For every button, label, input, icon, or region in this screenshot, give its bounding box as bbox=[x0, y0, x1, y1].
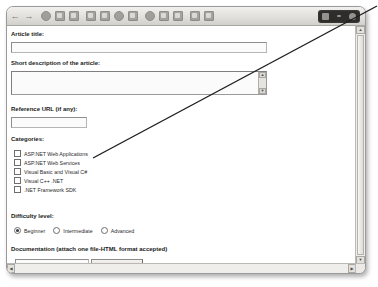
person-icon[interactable] bbox=[203, 10, 215, 22]
category-checkbox-row[interactable]: Visual C++ .NET bbox=[14, 176, 88, 185]
category-label: Visual C++ .NET bbox=[24, 178, 63, 184]
stop-icon[interactable] bbox=[40, 10, 52, 22]
article-title-label: Article title: bbox=[11, 31, 44, 37]
toolbar-separator bbox=[35, 11, 38, 22]
category-checkbox-row[interactable]: ASP.NET Web Applications bbox=[14, 149, 88, 158]
refresh-icon[interactable] bbox=[54, 10, 66, 22]
circle-icon[interactable] bbox=[349, 13, 356, 20]
radio-icon[interactable] bbox=[53, 227, 60, 234]
difficulty-label: Intermediate bbox=[63, 228, 92, 234]
checkbox-icon[interactable] bbox=[14, 150, 21, 157]
article-title-input[interactable] bbox=[11, 42, 267, 53]
category-checkbox-row[interactable]: Visual Basic and Visual C# bbox=[14, 167, 88, 176]
categories-label: Categories: bbox=[11, 136, 44, 142]
textarea-scroll-up-button[interactable]: ▲ bbox=[259, 72, 266, 78]
browser-toolbar: ← → bbox=[7, 7, 365, 26]
category-label: ASP.NET Web Applications bbox=[24, 151, 88, 157]
grid-icon[interactable] bbox=[322, 13, 329, 20]
toolbar-separator bbox=[184, 11, 187, 22]
checkbox-icon[interactable] bbox=[14, 168, 21, 175]
checkbox-icon[interactable] bbox=[14, 177, 21, 184]
scrollbar-corner bbox=[355, 263, 365, 273]
difficulty-radio-intermediate[interactable]: Intermediate bbox=[53, 227, 92, 234]
mail-icon[interactable] bbox=[127, 10, 139, 22]
radio-icon[interactable] bbox=[14, 227, 21, 234]
search-icon[interactable] bbox=[85, 10, 97, 22]
messenger-icon[interactable] bbox=[189, 10, 201, 22]
difficulty-label: Beginner bbox=[24, 228, 45, 234]
browser-window: ← → Article title: Short description of … bbox=[6, 6, 366, 274]
difficulty-radio-advanced[interactable]: Advanced bbox=[101, 227, 135, 234]
checkbox-icon[interactable] bbox=[14, 159, 21, 166]
toolbar-separator bbox=[139, 11, 142, 22]
print-icon[interactable] bbox=[144, 10, 156, 22]
scroll-up-button[interactable]: ▲ bbox=[356, 26, 365, 34]
textarea-scroll-down-button[interactable]: ▼ bbox=[259, 88, 266, 94]
radio-icon[interactable] bbox=[101, 227, 108, 234]
short-description-textarea[interactable]: ▲ ▼ bbox=[11, 71, 267, 95]
back-arrow-icon[interactable]: ← bbox=[9, 10, 21, 22]
toolbar-right-panel[interactable] bbox=[318, 10, 360, 23]
scroll-left-button[interactable]: ◀ bbox=[7, 264, 15, 273]
reference-url-input[interactable] bbox=[11, 117, 87, 128]
category-checkbox-row[interactable]: ASP.NET Web Services bbox=[14, 158, 88, 167]
toolbar-separator bbox=[80, 11, 83, 22]
horizontal-scrollbar[interactable]: ◀ ▶ bbox=[7, 263, 356, 273]
category-label: .NET Framework SDK bbox=[24, 187, 76, 193]
favorites-icon[interactable] bbox=[99, 10, 111, 22]
edit-icon[interactable] bbox=[158, 10, 170, 22]
documentation-label: Documentation (attach one file-HTML form… bbox=[11, 246, 167, 252]
difficulty-radio-beginner[interactable]: Beginner bbox=[14, 227, 45, 234]
reference-url-label: Reference URL (if any): bbox=[11, 106, 77, 112]
home-icon[interactable] bbox=[68, 10, 80, 22]
difficulty-level-label: Difficulty level: bbox=[11, 213, 54, 219]
discuss-icon[interactable] bbox=[172, 10, 184, 22]
dash-icon[interactable] bbox=[337, 15, 341, 17]
category-checkbox-list: ASP.NET Web ApplicationsASP.NET Web Serv… bbox=[14, 149, 88, 194]
history-icon[interactable] bbox=[113, 10, 125, 22]
short-description-label: Short description of the article: bbox=[11, 60, 100, 66]
page-content: Article title: Short description of the … bbox=[7, 26, 356, 264]
forward-arrow-icon[interactable]: → bbox=[23, 10, 35, 22]
vertical-scrollbar-thumb[interactable] bbox=[357, 35, 364, 255]
category-label: ASP.NET Web Services bbox=[24, 160, 80, 166]
category-label: Visual Basic and Visual C# bbox=[24, 169, 87, 175]
checkbox-icon[interactable] bbox=[14, 186, 21, 193]
difficulty-radio-group: BeginnerIntermediateAdvanced bbox=[14, 227, 134, 234]
vertical-scrollbar[interactable]: ▲ ▼ bbox=[355, 26, 365, 264]
textarea-scrollbar[interactable]: ▲ ▼ bbox=[258, 72, 266, 94]
category-checkbox-row[interactable]: .NET Framework SDK bbox=[14, 185, 88, 194]
difficulty-label: Advanced bbox=[111, 228, 135, 234]
